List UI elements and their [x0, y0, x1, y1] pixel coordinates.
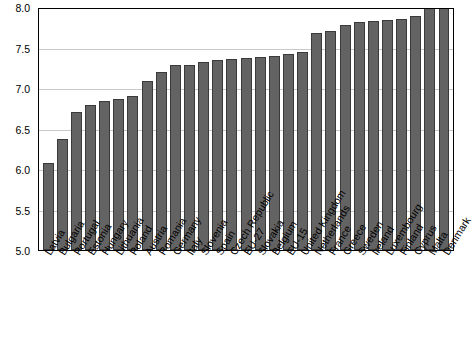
- y-axis: 5.05.56.06.57.07.58.0: [0, 8, 34, 251]
- x-axis-tick: Austria: [141, 252, 152, 336]
- y-axis-tick-label: 8.0: [15, 2, 30, 14]
- x-axis-tick: Latvia: [42, 252, 53, 336]
- bar: [382, 20, 393, 250]
- x-axis-tick: Sweden: [354, 252, 365, 336]
- x-axis-tick: Slovakia: [255, 252, 266, 336]
- bar-series: [39, 9, 453, 250]
- x-axis-tick: Denmark: [439, 252, 450, 336]
- x-axis-tick: France: [326, 252, 337, 336]
- y-axis-tick-label: 7.0: [15, 83, 30, 95]
- x-axis-tick: Portugal: [70, 252, 81, 336]
- x-axis-tick: Italy: [184, 252, 195, 336]
- x-axis-tick: Czech Republic: [226, 252, 237, 336]
- x-axis-tick: Greece: [340, 252, 351, 336]
- x-axis-tick: Estonia: [84, 252, 95, 336]
- x-axis-tick: Slovenia: [198, 252, 209, 336]
- y-axis-tick-label: 5.0: [15, 245, 30, 257]
- bar: [439, 8, 450, 250]
- x-axis-tick: Lithuania: [113, 252, 124, 336]
- x-axis-tick: Ireland: [368, 252, 379, 336]
- x-axis-tick: Luxembourg: [382, 252, 393, 336]
- x-axis: LatviaBulgariaPortugalEstoniaHungaryLith…: [38, 252, 454, 336]
- y-axis-tick-label: 6.0: [15, 164, 30, 176]
- x-axis-tick: Poland: [127, 252, 138, 336]
- x-axis-tick: Belgium: [269, 252, 280, 336]
- x-axis-tick: EU-15: [283, 252, 294, 336]
- y-axis-tick-label: 7.5: [15, 43, 30, 55]
- y-axis-tick-label: 6.5: [15, 124, 30, 136]
- y-axis-tick-label: 5.5: [15, 205, 30, 217]
- bar: [354, 22, 365, 250]
- plot-area: [38, 8, 454, 251]
- x-axis-tick: Spain: [212, 252, 223, 336]
- bar: [297, 52, 308, 250]
- x-axis-tick: Bulgaria: [56, 252, 67, 336]
- x-axis-tick: Netherlands: [311, 252, 322, 336]
- bar: [424, 8, 435, 250]
- x-axis-tick: Malta: [425, 252, 436, 336]
- x-axis-tick: United Kingdom: [297, 252, 308, 336]
- bar: [368, 21, 379, 250]
- x-axis-tick: Finland: [397, 252, 408, 336]
- x-axis-tick: EU-27: [240, 252, 251, 336]
- x-axis-tick: Germany: [169, 252, 180, 336]
- x-axis-tick: Cyprus: [411, 252, 422, 336]
- x-axis-tick: Hungary: [98, 252, 109, 336]
- x-axis-tick: Romania: [155, 252, 166, 336]
